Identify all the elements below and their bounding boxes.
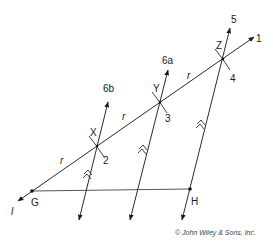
label-step-2: 2 (103, 155, 109, 166)
point-y (159, 101, 161, 103)
label-line-l: l (11, 206, 14, 217)
line-zh-step-5 (182, 28, 230, 220)
transversal-line-l (18, 37, 254, 201)
point-g (30, 189, 34, 193)
parallel-mark-6a (138, 145, 147, 154)
geometry-construction-diagram: G H X Y Z 1 2 3 4 5 6a 6b l r r r © John… (0, 0, 273, 242)
label-h: H (191, 196, 198, 207)
label-r-2: r (122, 111, 126, 122)
point-h (188, 187, 192, 191)
label-step-6a: 6a (162, 55, 174, 66)
label-step-6b: 6b (103, 83, 115, 94)
label-step-4: 4 (230, 73, 236, 84)
segment-gh (32, 189, 190, 191)
label-y: Y (153, 83, 160, 94)
parallel-line-6a (130, 70, 168, 220)
point-x (96, 145, 98, 147)
label-z: Z (216, 40, 222, 51)
label-r-3: r (187, 70, 191, 81)
label-step-5: 5 (231, 14, 237, 25)
label-r-1: r (60, 155, 64, 166)
label-g: G (31, 197, 39, 208)
label-x: X (90, 127, 97, 138)
copyright-notice: © John Wiley & Sons, Inc. (175, 229, 256, 237)
point-z (222, 58, 224, 60)
parallel-mark-5 (196, 120, 205, 129)
label-step-3: 3 (165, 113, 171, 124)
label-step-1: 1 (256, 33, 262, 44)
